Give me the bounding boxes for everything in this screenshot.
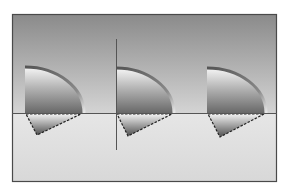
diagram-canvas xyxy=(0,0,289,194)
